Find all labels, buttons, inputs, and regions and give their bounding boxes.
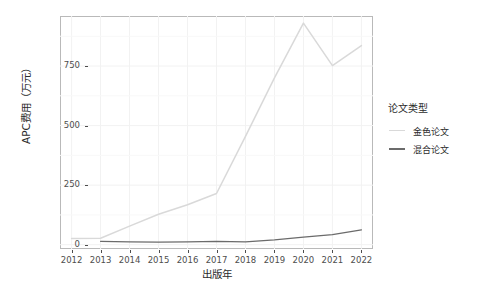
x-tick-mark [245, 250, 246, 253]
y-tick-mark [85, 185, 88, 186]
x-tick-label: 2022 [351, 255, 373, 265]
x-tick-mark [101, 250, 102, 253]
x-tick-mark [188, 250, 189, 253]
x-tick-label: 2015 [148, 255, 170, 265]
grid-minor [60, 16, 373, 249]
plot-panel [60, 16, 373, 249]
x-axis-title: 出版年 [60, 266, 373, 281]
x-tick-label: 2013 [90, 255, 112, 265]
x-tick-mark [159, 250, 160, 253]
x-tick-mark [72, 250, 73, 253]
x-tick-label: 2014 [119, 255, 141, 265]
x-tick-label: 2021 [322, 255, 344, 265]
x-tick-mark [130, 250, 131, 253]
plot-area [60, 16, 373, 249]
x-tick-mark [274, 250, 275, 253]
legend: 论文类型 金色论文混合论文 [388, 100, 473, 159]
y-tick-mark [85, 245, 88, 246]
x-tick-label: 2016 [177, 255, 199, 265]
legend-line-swatch-icon [388, 142, 406, 156]
y-tick-label: 250 [30, 180, 80, 189]
chart-figure: 7505002500 APC费用（万元） 2012201320142015201… [0, 0, 477, 285]
y-tick-label: 500 [30, 121, 80, 130]
legend-item-label: 金色论文 [413, 125, 449, 138]
x-tick-label: 2012 [61, 255, 83, 265]
x-tick-mark [332, 250, 333, 253]
y-tick-mark [85, 66, 88, 67]
x-tick-mark [303, 250, 304, 253]
y-tick-mark [85, 126, 88, 127]
x-tick-label: 2018 [235, 255, 257, 265]
x-tick-label: 2019 [264, 255, 286, 265]
x-tick-mark [217, 250, 218, 253]
x-tick-label: 2020 [293, 255, 315, 265]
series-line [101, 230, 362, 242]
legend-line-swatch-icon [388, 124, 406, 138]
legend-title: 论文类型 [388, 100, 473, 115]
legend-item-label: 混合论文 [413, 143, 449, 156]
y-axis: 7505002500 [30, 0, 54, 285]
legend-item[interactable]: 金色论文 [388, 123, 473, 139]
y-tick-label: 750 [30, 61, 80, 70]
y-axis-title: APC费用（万元） [18, 19, 33, 189]
legend-items: 金色论文混合论文 [388, 123, 473, 157]
y-tick-label: 0 [30, 240, 80, 249]
x-tick-label: 2017 [206, 255, 228, 265]
legend-item[interactable]: 混合论文 [388, 141, 473, 157]
x-tick-mark [361, 250, 362, 253]
